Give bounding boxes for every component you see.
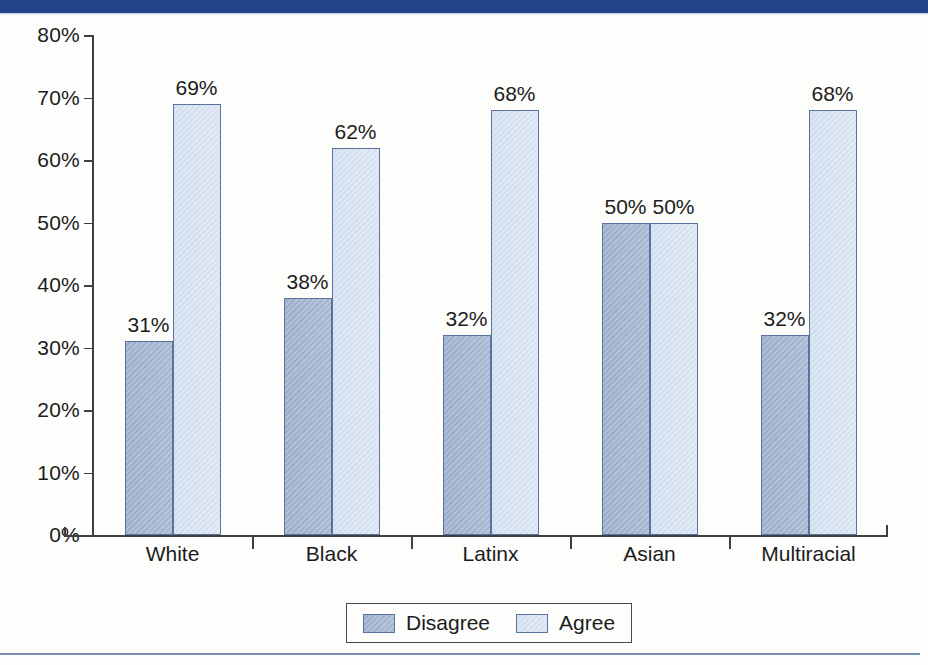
- legend-swatch-disagree-icon: [363, 614, 395, 633]
- y-axis-label: 10%: [0, 461, 80, 485]
- bar-agree-multiracial[interactable]: 68%: [809, 110, 857, 535]
- x-axis-category-label: Black: [306, 542, 357, 566]
- bar-disagree-latinx[interactable]: 32%: [443, 335, 491, 535]
- legend-swatch-agree-icon: [516, 614, 548, 633]
- bar-disagree-white[interactable]: 31%: [125, 341, 173, 535]
- bar-value-label: 38%: [286, 270, 328, 294]
- legend-label-disagree: Disagree: [406, 611, 490, 635]
- x-axis-separator-tick: [729, 536, 731, 549]
- x-axis-separator-tick: [411, 536, 413, 549]
- y-axis-tick: [84, 473, 93, 475]
- bar-value-label: 50%: [604, 195, 646, 219]
- y-axis-tick: [84, 410, 93, 412]
- y-axis-label: 80%: [0, 23, 80, 47]
- y-axis-tick: [84, 223, 93, 225]
- x-axis-line: [64, 535, 888, 537]
- legend-item-agree[interactable]: Agree: [516, 611, 615, 635]
- bar-disagree-black[interactable]: 38%: [284, 298, 332, 536]
- x-axis-end-cap: [886, 525, 888, 537]
- y-axis-label: 50%: [0, 211, 80, 235]
- page-top-rule: [0, 0, 928, 13]
- bar-group: 31%69%: [93, 35, 252, 535]
- y-axis-tick: [84, 285, 93, 287]
- bar-agree-black[interactable]: 62%: [332, 148, 380, 536]
- grouped-bar-chart: 0%10%20%30%40%50%60%70%80% 31%69%38%62%3…: [0, 15, 928, 653]
- y-axis-label: 20%: [0, 398, 80, 422]
- y-axis-tick: [84, 98, 93, 100]
- bar-group: 32%68%: [411, 35, 570, 535]
- bar-value-label: 32%: [445, 307, 487, 331]
- bar-agree-white[interactable]: 69%: [173, 104, 221, 535]
- bar-group: 38%62%: [252, 35, 411, 535]
- y-axis-label: 40%: [0, 273, 80, 297]
- x-axis-category-label: Asian: [623, 542, 676, 566]
- legend-label-agree: Agree: [559, 611, 615, 635]
- x-axis-category-label: White: [146, 542, 200, 566]
- y-axis-tick: [84, 35, 93, 37]
- bar-agree-asian[interactable]: 50%: [650, 223, 698, 536]
- bar-disagree-asian[interactable]: 50%: [602, 223, 650, 536]
- bar-agree-latinx[interactable]: 68%: [491, 110, 539, 535]
- bar-value-label: 62%: [334, 120, 376, 144]
- chart-legend: Disagree Agree: [346, 603, 632, 643]
- bar-group: 50%50%: [570, 35, 729, 535]
- bar-value-label: 31%: [127, 313, 169, 337]
- legend-item-disagree[interactable]: Disagree: [363, 611, 490, 635]
- bar-value-label: 68%: [811, 82, 853, 106]
- y-axis-label: 60%: [0, 148, 80, 172]
- bar-disagree-multiracial[interactable]: 32%: [761, 335, 809, 535]
- bar-value-label: 50%: [652, 195, 694, 219]
- x-axis-start-cap: [64, 527, 66, 537]
- bar-value-label: 68%: [493, 82, 535, 106]
- bar-group: 32%68%: [729, 35, 888, 535]
- y-axis-label: 30%: [0, 336, 80, 360]
- y-axis-label: 70%: [0, 86, 80, 110]
- bar-value-label: 69%: [175, 76, 217, 100]
- bar-value-label: 32%: [763, 307, 805, 331]
- page-bottom-rule: [0, 653, 920, 655]
- x-axis-category-label: Multiracial: [761, 542, 856, 566]
- y-axis-tick: [84, 160, 93, 162]
- x-axis-separator-tick: [570, 536, 572, 549]
- y-axis-tick: [84, 348, 93, 350]
- x-axis-category-label: Latinx: [462, 542, 518, 566]
- x-axis-separator-tick: [252, 536, 254, 549]
- plot-area: 31%69%38%62%32%68%50%50%32%68%: [93, 35, 888, 535]
